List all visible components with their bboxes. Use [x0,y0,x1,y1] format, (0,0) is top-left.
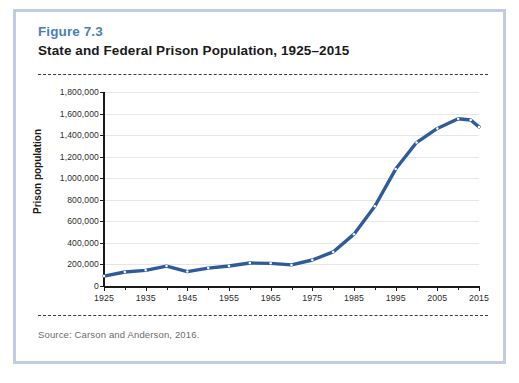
data-point-marker [144,269,147,272]
x-axis-tick-mark [104,286,105,291]
y-axis-tick-mark [100,178,104,179]
y-axis-tick-mark [100,221,104,222]
y-axis-tick-mark [100,92,104,93]
x-axis-tick-mark [458,286,459,290]
x-axis-tick-label: 1945 [167,293,207,303]
data-point-marker [415,141,418,144]
x-axis-tick-mark [312,286,313,291]
y-axis-tick-label: 800,000 [21,195,99,205]
data-point-marker [311,259,314,262]
x-axis-tick-mark [250,286,251,290]
x-axis-tick-mark [229,286,230,291]
x-axis-tick-label: 2005 [417,293,457,303]
x-axis-tick-mark [271,286,272,291]
y-axis-tick-label: 200,000 [21,259,99,269]
y-axis-tick-label: 600,000 [21,216,99,226]
x-axis-tick-label: 2015 [459,293,499,303]
data-point-marker [186,270,189,273]
data-point-marker [332,251,335,254]
x-axis-tick-label: 1995 [376,293,416,303]
x-axis-tick-label: 1925 [84,293,124,303]
source-note: Source: Carson and Anderson, 2016. [38,329,199,340]
figure-card-inner: Figure 7.3 State and Federal Prison Popu… [16,12,503,361]
x-axis-tick-mark [479,286,480,291]
data-point-marker [478,126,481,129]
data-point-marker [457,117,460,120]
x-axis-tick-mark [333,286,334,290]
data-point-marker [124,271,127,274]
y-axis-tick-label: 1,600,000 [21,109,99,119]
data-point-marker [436,127,439,129]
chart-area: Prison population 1,800,0001,600,0001,40… [16,78,503,310]
series-line-chart [104,92,480,287]
x-axis-tick-label: 1985 [334,293,374,303]
x-axis-tick-mark [417,286,418,290]
figure-title: State and Federal Prison Population, 192… [38,43,349,58]
data-point-marker [374,205,377,208]
data-point-marker [103,275,106,278]
x-axis-tick-mark [208,286,209,290]
y-axis-tick-mark [100,157,104,158]
x-axis-tick-mark [167,286,168,290]
figure-card: Figure 7.3 State and Federal Prison Popu… [13,9,506,364]
data-point-marker [207,267,210,270]
data-point-marker [249,262,252,265]
x-axis-tick-mark [437,286,438,291]
x-axis-tick-label: 1965 [251,293,291,303]
x-axis-tick-mark [292,286,293,290]
data-point-marker [228,265,231,268]
data-point-marker [469,119,472,122]
data-point-marker [394,168,397,171]
x-axis-tick-mark [396,286,397,291]
y-axis-tick-mark [100,264,104,265]
y-axis-tick-label: 1,800,000 [21,87,99,97]
divider-top [38,74,488,75]
x-axis-tick-label: 1935 [126,293,166,303]
y-axis-tick-mark [100,243,104,244]
y-axis-tick-mark [100,135,104,136]
y-axis-tick-label: 1,200,000 [21,152,99,162]
x-axis-tick-mark [375,286,376,290]
data-point-marker [290,264,293,267]
data-point-marker [165,265,168,268]
x-axis-tick-mark [187,286,188,291]
y-axis-tick-label: 1,400,000 [21,130,99,140]
figure-number-label: Figure 7.3 [38,24,103,39]
y-axis-tick-mark [100,200,104,201]
y-axis-tick-mark [100,114,104,115]
divider-bottom [38,315,488,316]
y-axis-tick-label: 1,000,000 [21,173,99,183]
series-path [104,119,479,276]
y-axis-tick-labels: 1,800,0001,600,0001,400,0001,200,0001,00… [16,92,99,286]
x-axis-tick-mark [125,286,126,290]
x-axis-tick-label: 1955 [209,293,249,303]
data-point-marker [269,262,272,265]
data-point-marker [353,233,356,236]
x-axis-tick-mark [146,286,147,291]
y-axis-tick-label: 0 [21,281,99,291]
y-axis-tick-label: 400,000 [21,238,99,248]
x-axis-tick-label: 1975 [292,293,332,303]
x-axis-tick-mark [354,286,355,291]
